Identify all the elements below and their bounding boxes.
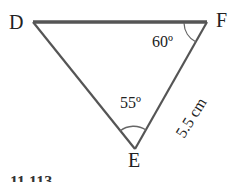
vertex-label-D: D	[9, 12, 23, 32]
triangle-diagram	[0, 0, 235, 182]
vertex-label-E: E	[128, 150, 140, 170]
figure-caption: 11.113	[10, 174, 52, 182]
angle-arc-F	[184, 23, 196, 42]
angle-label-E: 55º	[120, 95, 141, 111]
angle-arc-E	[120, 126, 146, 131]
angle-label-F: 60º	[152, 34, 173, 50]
vertex-label-F: F	[216, 10, 227, 30]
side-DE	[33, 22, 135, 149]
